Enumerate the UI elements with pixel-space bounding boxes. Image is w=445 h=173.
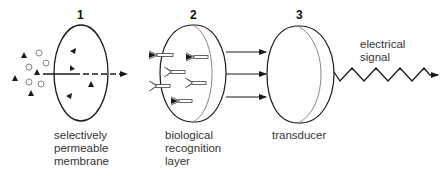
membrane-stage	[12, 25, 127, 121]
label-line: recognition	[165, 142, 221, 155]
interferent-circle-icon	[38, 81, 44, 87]
label-line: signal	[360, 51, 405, 64]
analyte-triangle-icon	[12, 75, 18, 81]
analyte-triangle-icon	[21, 52, 27, 58]
interferent-circle-icon	[26, 79, 32, 85]
electrical-signal-zigzag	[334, 68, 438, 81]
analyte-triangle-icon	[70, 65, 75, 71]
transducer-disc-outline	[267, 26, 334, 123]
analyte-triangle-icon	[34, 69, 40, 75]
membrane-ellipse	[54, 25, 108, 121]
label-line: permeable	[54, 142, 109, 155]
recognition-layer-stage	[149, 25, 226, 122]
transducer-stage	[267, 26, 334, 123]
analyte-triangle-icon	[28, 90, 34, 96]
label-line: selectively	[54, 129, 109, 142]
stage-number-2: 2	[190, 9, 197, 21]
sample-particles	[12, 50, 49, 96]
label-line: electrical	[360, 38, 405, 51]
analyte-triangle-icon	[88, 81, 94, 87]
label-line: transducer	[272, 129, 326, 142]
analyte-triangle-icon	[66, 93, 72, 99]
stage-label-recognition-layer: biological recognition layer	[165, 129, 221, 168]
interferent-circle-icon	[26, 64, 32, 70]
label-line: membrane	[54, 155, 109, 168]
signal-transfer-arrows	[226, 52, 266, 97]
stage-number-1: 1	[77, 9, 84, 21]
electrical-signal-label: electrical signal	[360, 38, 405, 64]
stage-label-membrane: selectively permeable membrane	[54, 129, 109, 168]
interferent-circle-icon	[36, 50, 42, 56]
stage-number-3: 3	[296, 9, 303, 21]
analyte-triangle-icon	[70, 48, 76, 54]
stage-label-transducer: transducer	[272, 129, 326, 142]
interferent-circle-icon	[43, 60, 49, 66]
label-line: biological	[165, 129, 221, 142]
label-line: layer	[165, 155, 221, 168]
